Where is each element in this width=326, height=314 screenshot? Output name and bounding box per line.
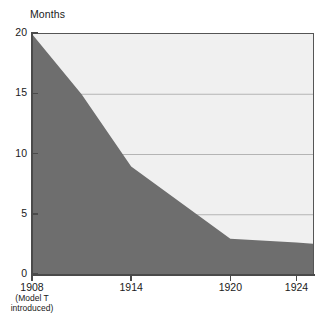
y-tick-mark-5 — [33, 213, 38, 215]
plot-area — [32, 33, 314, 275]
y-tick-label-0: 0 — [3, 267, 27, 279]
x-axis-line — [31, 274, 315, 276]
y-tick-mark-0 — [33, 273, 38, 275]
plot-svg — [32, 34, 313, 275]
x-tick-label-1924: 1924 — [285, 281, 308, 293]
y-tick-mark-20 — [33, 32, 38, 34]
x-axis-annotation-model-t: (Model T introduced) — [0, 293, 64, 313]
y-tick-label-10: 10 — [3, 147, 27, 159]
annotation-line-2: introduced) — [0, 303, 64, 313]
y-tick-label-15: 15 — [3, 86, 27, 98]
x-tick-label-1908: 1908 — [20, 281, 43, 293]
annotation-line-1: (Model T — [0, 293, 64, 303]
y-tick-label-5: 5 — [3, 207, 27, 219]
x-tick-label-1920: 1920 — [219, 281, 242, 293]
y-tick-mark-10 — [33, 153, 38, 155]
y-tick-label-20: 20 — [3, 26, 27, 38]
y-tick-mark-15 — [33, 93, 38, 95]
y-axis-title: Months — [30, 8, 65, 20]
x-tick-label-1914: 1914 — [119, 281, 142, 293]
area-chart: Months 20151050 1908191419201924 (Model … — [0, 0, 326, 314]
